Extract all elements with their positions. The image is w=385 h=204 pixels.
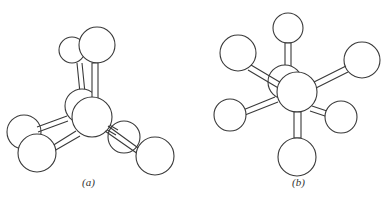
- molecule-a: [7, 27, 174, 175]
- molecule-diagrams: [0, 0, 385, 204]
- panel-label-b: (b): [292, 176, 305, 188]
- panel-label-a: (a): [82, 176, 95, 188]
- molecule-b: [214, 13, 380, 176]
